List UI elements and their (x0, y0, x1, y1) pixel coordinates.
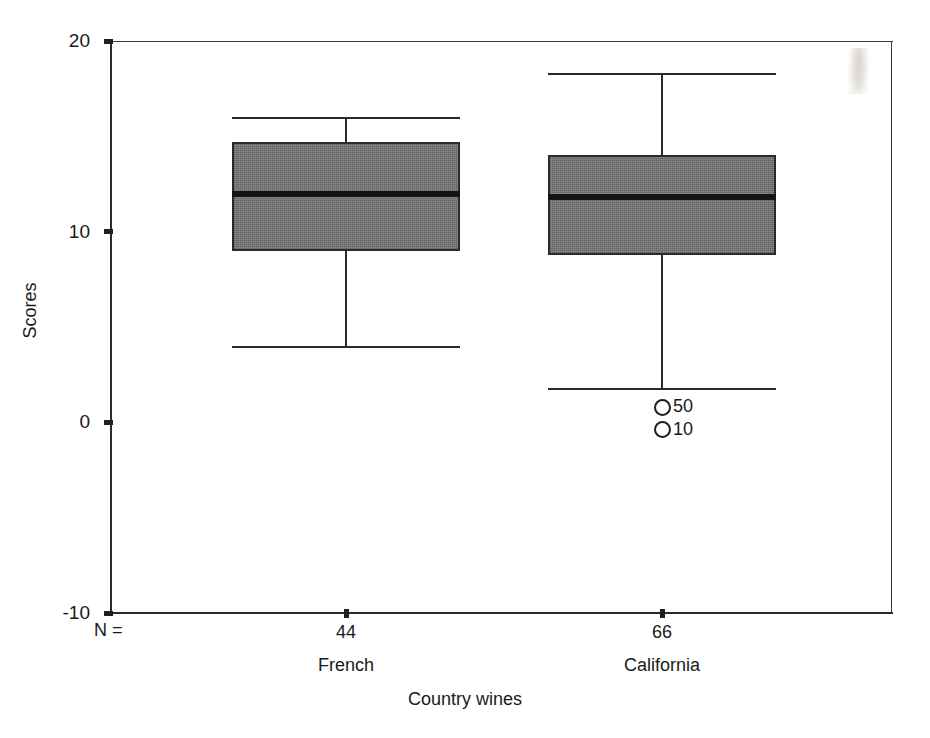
whisker-upper-stem (661, 73, 663, 155)
y-axis-tick (104, 611, 113, 616)
y-axis-title: Scores (20, 251, 41, 371)
whisker-lower-stem (661, 255, 663, 388)
x-axis-tick (344, 609, 349, 618)
x-axis-category-label: California (572, 655, 752, 676)
whisker-upper-cap (232, 117, 460, 119)
whisker-lower-cap (548, 388, 776, 390)
n-count-value: 44 (286, 622, 406, 643)
n-prefix-label: N = (94, 620, 123, 641)
whisker-upper-cap (548, 73, 776, 75)
x-axis-line (110, 612, 893, 614)
outlier-marker (654, 399, 671, 416)
y-axis-tick (104, 229, 113, 234)
y-axis-tick-label: 20 (28, 31, 90, 50)
plot-frame-right (891, 41, 892, 614)
median-line-california (548, 194, 776, 200)
y-axis-tick (104, 39, 113, 44)
outlier-case-label: 50 (673, 396, 693, 417)
x-axis-category-label: French (256, 655, 436, 676)
whisker-lower-stem (345, 251, 347, 346)
n-count-value: 66 (602, 622, 722, 643)
y-axis-line (110, 41, 112, 614)
x-axis-tick (660, 609, 665, 618)
outlier-case-label: 10 (673, 419, 693, 440)
box-iqr-california (548, 155, 776, 254)
y-axis-tick-label: 10 (28, 222, 90, 241)
scan-artifact (848, 48, 870, 94)
y-axis-tick (104, 420, 113, 425)
x-axis-title: Country wines (0, 689, 930, 710)
whisker-lower-cap (232, 346, 460, 348)
y-axis-tick-label: -10 (28, 603, 90, 622)
boxplot-chart: Scores 20100-10 5010 N = 44French66Calif… (0, 0, 930, 738)
whisker-upper-stem (345, 117, 347, 142)
outlier-marker (654, 421, 671, 438)
plot-frame-top (110, 41, 893, 42)
y-axis-tick-label: 0 (28, 412, 90, 431)
median-line-french (232, 191, 460, 197)
